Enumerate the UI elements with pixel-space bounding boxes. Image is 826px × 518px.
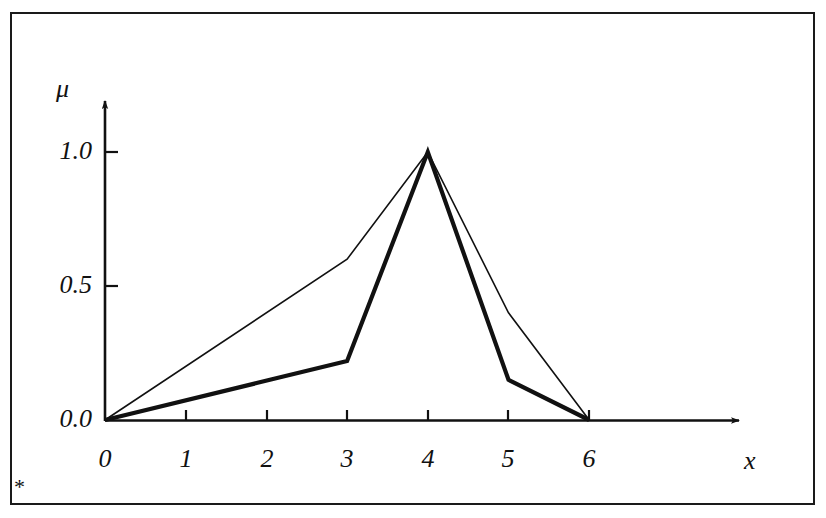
- x-tick-label-3: 3: [327, 446, 367, 472]
- figure-page: μ x 0.0 0.5 1.0 0 1 2 3 4 5 6 *: [0, 0, 826, 518]
- figure-frame: [10, 12, 815, 505]
- x-tick-label-1: 1: [166, 446, 206, 472]
- y-tick-label-0-5: 0.5: [14, 272, 92, 298]
- x-tick-label-4: 4: [408, 446, 448, 472]
- y-tick-label-1-0: 1.0: [14, 138, 92, 164]
- x-tick-label-5: 5: [488, 446, 528, 472]
- x-tick-label-6: 6: [569, 446, 609, 472]
- y-tick-label-0-0: 0.0: [14, 406, 92, 432]
- x-tick-label-0: 0: [85, 446, 125, 472]
- x-axis-title: x: [744, 448, 756, 474]
- y-axis-title: μ: [56, 76, 69, 102]
- x-tick-label-2: 2: [247, 446, 287, 472]
- footnote-marker: *: [14, 476, 25, 498]
